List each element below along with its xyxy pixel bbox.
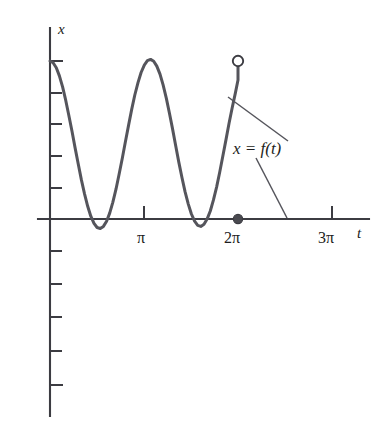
y-axis-ticks-negative [50, 251, 63, 385]
open-circle-marker [233, 56, 243, 66]
x-axis-label: t [357, 225, 362, 241]
function-curve [50, 59, 238, 228]
leader-line-curve [228, 97, 288, 141]
figure-container: x t π 2π 3π x = f(t) [0, 0, 390, 433]
x-tick-label-pi: π [137, 229, 145, 246]
filled-dot-marker [233, 214, 242, 223]
x-tick-label-3pi: 3π [318, 229, 334, 246]
plot-svg: x t π 2π 3π x = f(t) [0, 0, 390, 433]
x-tick-label-2pi: 2π [224, 229, 240, 246]
function-label: x = f(t) [232, 139, 282, 158]
leader-line-axis [256, 158, 287, 218]
y-axis-label: x [57, 21, 65, 37]
